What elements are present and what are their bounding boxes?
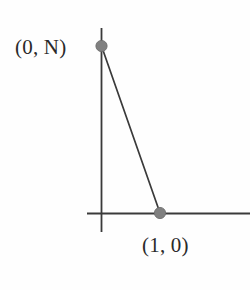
line-segment (102, 46, 161, 213)
label-y-intercept: (0, N) (15, 35, 66, 59)
point-marker-x-intercept (154, 207, 165, 218)
figure-canvas: (0, N) (1, 0) (0, 0, 250, 290)
point-marker-y-intercept (96, 40, 107, 51)
label-x-intercept: (1, 0) (142, 233, 189, 257)
